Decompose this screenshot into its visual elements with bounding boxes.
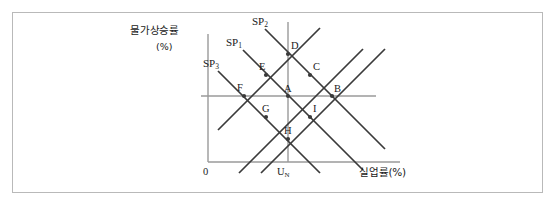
curve-label-sp1: SP1 bbox=[226, 37, 242, 48]
origin-tick-label: 0 bbox=[203, 167, 208, 178]
point-label-D: D bbox=[291, 41, 299, 52]
curve-label-text: SP bbox=[226, 36, 238, 48]
point-label-E: E bbox=[259, 62, 265, 73]
y-axis-title: 물가상승률 bbox=[130, 25, 179, 36]
curve-label-sp2: SP2 bbox=[252, 16, 268, 27]
natural-rate-tick-label: UN bbox=[277, 167, 290, 178]
figure-screen: 물가상승률 (%) 실업률(%) 0 UN SP3SP1SP2DECFABGIH bbox=[0, 0, 556, 205]
curve-label-text: SP bbox=[203, 57, 215, 69]
point-label-H: H bbox=[284, 126, 292, 137]
natural-rate-symbol: U bbox=[277, 166, 285, 177]
curve-label-subscript: 1 bbox=[238, 41, 242, 50]
curve-label-subscript: 2 bbox=[264, 20, 268, 29]
point-label-A: A bbox=[284, 84, 292, 95]
curve-label-subscript: 3 bbox=[215, 62, 219, 71]
point-label-B: B bbox=[334, 84, 341, 95]
y-axis-unit: (%) bbox=[156, 42, 172, 52]
natural-rate-subscript: N bbox=[285, 171, 290, 179]
curve-label-sp3: SP3 bbox=[203, 58, 219, 69]
curve-label-text: SP bbox=[252, 15, 264, 27]
point-label-G: G bbox=[262, 104, 270, 115]
point-label-C: C bbox=[313, 62, 320, 73]
x-axis-title: 실업률(%) bbox=[359, 167, 406, 178]
point-label-F: F bbox=[237, 83, 243, 94]
point-label-I: I bbox=[313, 104, 317, 115]
